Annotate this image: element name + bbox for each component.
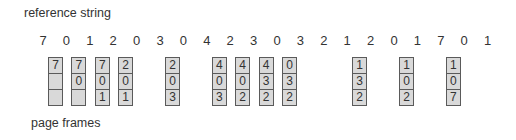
frame-cell xyxy=(72,90,85,105)
reference-item: 2 xyxy=(107,33,119,48)
frame-cell: 2 xyxy=(260,90,273,105)
frame-column: 432 xyxy=(259,57,274,106)
frame-cell: 3 xyxy=(283,74,296,90)
frame-column: 203 xyxy=(165,57,180,106)
reference-item: 3 xyxy=(154,33,166,48)
reference-item: 7 xyxy=(37,33,49,48)
frame-cell: 0 xyxy=(447,74,460,90)
frame-cell: 7 xyxy=(447,90,460,105)
frame-cell: 0 xyxy=(119,74,132,90)
frame-cell xyxy=(49,90,62,105)
frame-cell: 0 xyxy=(213,74,226,90)
frame-cell: 0 xyxy=(400,74,413,90)
frame-cell: 4 xyxy=(260,58,273,74)
reference-item: 1 xyxy=(341,33,353,48)
frame-column: 701 xyxy=(95,57,110,106)
reference-item: 0 xyxy=(60,33,72,48)
frame-column: 102 xyxy=(399,57,414,106)
reference-item: 0 xyxy=(388,33,400,48)
frame-cell: 1 xyxy=(96,90,109,105)
frame-cell: 0 xyxy=(236,74,249,90)
reference-item: 1 xyxy=(411,33,423,48)
reference-item: 1 xyxy=(84,33,96,48)
frame-cell: 7 xyxy=(49,58,62,74)
frame-cell: 0 xyxy=(166,74,179,90)
frame-column: 132 xyxy=(352,57,367,106)
frame-cell: 2 xyxy=(236,90,249,105)
frame-cell: 7 xyxy=(72,58,85,74)
frame-cell: 2 xyxy=(166,58,179,74)
reference-item: 0 xyxy=(271,33,283,48)
reference-item: 2 xyxy=(224,33,236,48)
frame-cell: 0 xyxy=(96,74,109,90)
reference-item: 2 xyxy=(365,33,377,48)
frame-column: 70 xyxy=(71,57,86,106)
frame-column: 403 xyxy=(212,57,227,106)
reference-item: 4 xyxy=(201,33,213,48)
frame-cell: 2 xyxy=(353,90,366,105)
frame-cell: 2 xyxy=(400,90,413,105)
frame-cell: 3 xyxy=(353,74,366,90)
reference-item: 1 xyxy=(482,33,494,48)
reference-item: 7 xyxy=(435,33,447,48)
frame-cell: 2 xyxy=(283,90,296,105)
frame-cell: 1 xyxy=(119,90,132,105)
frame-cell: 2 xyxy=(119,58,132,74)
reference-item: 2 xyxy=(318,33,330,48)
frame-cell: 7 xyxy=(96,58,109,74)
frame-column: 7 xyxy=(48,57,63,106)
frame-cell xyxy=(49,74,62,90)
reference-item: 3 xyxy=(248,33,260,48)
frame-column: 107 xyxy=(446,57,461,106)
frame-column: 032 xyxy=(282,57,297,106)
page-frames-label: page frames xyxy=(31,116,100,130)
frame-cell: 1 xyxy=(447,58,460,74)
reference-string-label: reference string xyxy=(24,6,111,20)
frame-cell: 4 xyxy=(213,58,226,74)
frame-cell: 3 xyxy=(166,90,179,105)
frame-column: 402 xyxy=(235,57,250,106)
frame-cell: 1 xyxy=(400,58,413,74)
reference-item: 0 xyxy=(177,33,189,48)
frame-cell: 0 xyxy=(283,58,296,74)
frame-column: 201 xyxy=(118,57,133,106)
reference-item: 3 xyxy=(294,33,306,48)
reference-item: 0 xyxy=(131,33,143,48)
frame-cell: 3 xyxy=(213,90,226,105)
frame-cell: 3 xyxy=(260,74,273,90)
reference-item: 0 xyxy=(458,33,470,48)
frame-cell: 4 xyxy=(236,58,249,74)
frame-cell: 0 xyxy=(72,74,85,90)
frame-cell: 1 xyxy=(353,58,366,74)
